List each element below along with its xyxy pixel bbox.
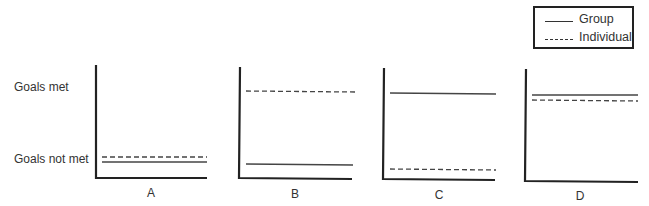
legend-group-label: Group bbox=[579, 12, 614, 26]
individual-line bbox=[532, 100, 638, 101]
panel-c bbox=[383, 68, 496, 180]
legend-item-individual: Individual bbox=[535, 30, 632, 46]
individual-line bbox=[390, 169, 496, 170]
panel-label-b: B bbox=[285, 187, 305, 201]
panel-d bbox=[525, 69, 638, 182]
solid-line-icon bbox=[545, 21, 573, 22]
panel-b bbox=[239, 67, 355, 179]
legend-individual-label: Individual bbox=[579, 30, 632, 44]
panel-a bbox=[96, 65, 207, 178]
legend: Group Individual bbox=[533, 6, 634, 49]
panel-label-c: C bbox=[429, 188, 449, 202]
individual-line bbox=[246, 91, 355, 92]
group-line bbox=[390, 93, 496, 94]
panel-label-a: A bbox=[141, 186, 161, 200]
dashed-line-icon bbox=[545, 39, 573, 40]
group-line bbox=[246, 164, 353, 165]
panel-label-d: D bbox=[570, 189, 590, 203]
legend-item-group: Group bbox=[535, 12, 632, 28]
